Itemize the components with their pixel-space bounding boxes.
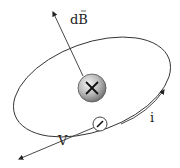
electron [93,117,107,131]
nucleus [78,74,106,102]
current-label: i [150,110,154,125]
velocity-arrow [19,127,95,159]
diagram-canvas: dB V i [0,0,180,168]
velocity-label: V [57,133,68,148]
field-label: dB [70,12,88,27]
